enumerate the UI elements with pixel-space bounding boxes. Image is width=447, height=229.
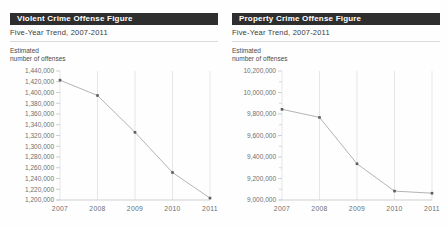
violent-crime-panel: Violent Crime Offense Figure Five-Year T… <box>10 13 218 217</box>
gridlines <box>282 71 432 200</box>
violent-crime-trend-chart: 1,440,0001,420,0001,400,0001,380,0001,36… <box>10 65 218 217</box>
y-tick-label: 1,260,000 <box>25 164 54 171</box>
x-tick-label: 2009 <box>127 205 143 212</box>
y-tick-label: 1,420,000 <box>25 78 54 85</box>
panel-subtitle: Five-Year Trend, 2007-2011 <box>10 28 218 37</box>
y-tick-label: 1,240,000 <box>25 175 54 182</box>
gridlines <box>60 71 210 200</box>
y-tick-label: 1,320,000 <box>25 132 54 139</box>
y-axis-tick-labels: 10,200,00010,000,0009,800,0009,600,0009,… <box>243 67 276 203</box>
violent-crime-title-bar: Violent Crime Offense Figure <box>10 13 218 25</box>
y-tick-label: 9,600,000 <box>247 132 276 139</box>
x-tick-label: 2010 <box>164 205 180 212</box>
x-tick-label: 2009 <box>349 205 365 212</box>
y-tick-label: 1,440,000 <box>25 67 54 74</box>
y-axis-note: Estimated number of offenses <box>10 47 218 63</box>
x-tick-label: 2008 <box>89 205 105 212</box>
panel-title: Violent Crime Offense Figure <box>17 14 133 23</box>
x-tick-label: 2007 <box>274 205 290 212</box>
y-tick-label: 1,340,000 <box>25 121 54 128</box>
y-tick-label: 9,400,000 <box>247 153 276 160</box>
y-tick-label: 1,380,000 <box>25 100 54 107</box>
subtitle-separator <box>232 41 440 42</box>
x-axis-tick-labels: 20072008200920102011 <box>274 205 440 212</box>
axes <box>278 71 432 200</box>
y-tick-label: 1,280,000 <box>25 153 54 160</box>
data-point-marker <box>134 131 137 134</box>
y-tick-label: 1,360,000 <box>25 110 54 117</box>
data-point-marker <box>393 190 396 193</box>
data-point-marker <box>96 94 99 97</box>
data-point-marker <box>356 162 359 165</box>
y-tick-label: 9,200,000 <box>247 175 276 182</box>
x-tick-label: 2011 <box>202 205 218 212</box>
y-tick-label: 9,800,000 <box>247 110 276 117</box>
x-tick-label: 2010 <box>386 205 402 212</box>
data-point-marker <box>171 171 174 174</box>
property-crime-trend-chart: 10,200,00010,000,0009,800,0009,600,0009,… <box>232 65 440 217</box>
y-tick-label: 1,300,000 <box>25 143 54 150</box>
panel-title: Property Crime Offense Figure <box>239 14 361 23</box>
figure-page: { "colors": { "header_bg": "#2e2e2e", "h… <box>0 0 447 229</box>
data-point-marker <box>318 116 321 119</box>
y-tick-label: 10,200,000 <box>243 67 276 74</box>
data-point-marker <box>431 192 434 195</box>
panel-subtitle: Five-Year Trend, 2007-2011 <box>232 28 440 37</box>
y-tick-label: 1,400,000 <box>25 89 54 96</box>
property-crime-title-bar: Property Crime Offense Figure <box>232 13 440 25</box>
y-tick-label: 10,000,000 <box>243 89 276 96</box>
data-point-marker <box>281 108 284 111</box>
data-point-marker <box>59 79 62 82</box>
x-tick-label: 2008 <box>311 205 327 212</box>
y-axis-tick-labels: 1,440,0001,420,0001,400,0001,380,0001,36… <box>25 67 54 203</box>
data-point-marker <box>209 197 212 200</box>
property-crime-panel: Property Crime Offense Figure Five-Year … <box>232 13 440 217</box>
y-axis-note: Estimated number of offenses <box>232 47 440 63</box>
y-tick-label: 1,220,000 <box>25 186 54 193</box>
axes <box>56 71 210 200</box>
y-tick-label: 9,000,000 <box>247 196 276 203</box>
subtitle-separator <box>10 41 218 42</box>
x-axis-tick-labels: 20072008200920102011 <box>52 205 218 212</box>
y-tick-label: 1,200,000 <box>25 196 54 203</box>
x-tick-label: 2007 <box>52 205 68 212</box>
x-tick-label: 2011 <box>424 205 440 212</box>
